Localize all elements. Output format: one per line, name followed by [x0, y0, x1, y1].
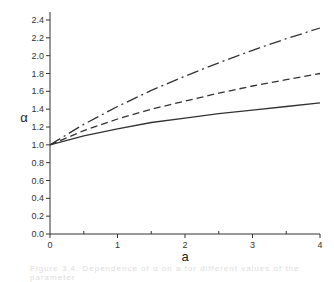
y-tick-label: 0.4: [31, 193, 44, 203]
x-tick-label: 4: [317, 240, 322, 250]
y-tick-label: 1.6: [31, 86, 44, 96]
series-dash-dot: [50, 28, 320, 145]
x-tick-label: 1: [115, 240, 120, 250]
figure-caption: Figure 3.4: Dependence of α on a for dif…: [30, 264, 320, 282]
y-tick-label: 0.2: [31, 211, 44, 221]
y-tick-label: 0.6: [31, 176, 44, 186]
y-tick-label: 0.8: [31, 158, 44, 168]
y-tick-label: 2.2: [31, 33, 44, 43]
y-tick-label: 0.0: [31, 229, 44, 239]
plot-lines: [50, 28, 320, 145]
x-tick-label: 3: [250, 240, 255, 250]
y-tick-label: 2.0: [31, 51, 44, 61]
y-axis-label: α: [20, 110, 28, 125]
y-tick-label: 1.8: [31, 69, 44, 79]
series-solid: [50, 103, 320, 145]
y-tick-label: 2.4: [31, 15, 44, 25]
y-tick-label: 1.2: [31, 122, 44, 132]
y-tick-label: 1.4: [31, 104, 44, 114]
x-axis-label: a: [181, 249, 189, 264]
x-tick-label: 0: [47, 240, 52, 250]
y-tick-label: 1.0: [31, 140, 44, 150]
